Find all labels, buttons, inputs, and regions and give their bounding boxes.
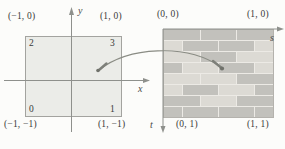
brick-dark <box>237 30 273 40</box>
texture-corner-label-top-right: (1, 0) <box>247 9 269 19</box>
brick-light <box>164 41 182 51</box>
brick-row <box>164 74 273 84</box>
x-axis-arrowhead-icon <box>143 78 150 83</box>
unit-square <box>25 36 122 117</box>
brick-dark <box>255 85 273 95</box>
brick-dark <box>164 96 200 106</box>
brick-light <box>201 96 237 106</box>
brick-row <box>164 30 273 40</box>
brick-dark <box>237 74 273 84</box>
brick-light <box>164 74 200 84</box>
brick-light <box>237 52 273 62</box>
brick-row <box>164 63 273 73</box>
brick-light <box>164 52 200 62</box>
brick-dark <box>237 96 273 106</box>
brick-row <box>164 96 273 106</box>
texture-corner-label-top-left: (0, 0) <box>157 9 179 19</box>
brick-dark <box>164 30 200 40</box>
s-axis-arrowhead-icon <box>277 27 284 32</box>
square-corner-label-bottom-right: (1, −1) <box>98 119 125 129</box>
y-axis-arrowhead-icon <box>69 7 74 15</box>
texture-image <box>163 29 274 118</box>
brick-dark <box>183 107 218 117</box>
brick-dark <box>255 107 273 117</box>
brick-dark <box>183 85 218 95</box>
texture-corner-label-bottom-right: (1, 1) <box>247 119 269 129</box>
t-axis-arrowhead-icon <box>161 126 166 133</box>
brick-row <box>164 52 273 62</box>
texture-corner-label-bottom-left: (0, 1) <box>176 119 198 129</box>
vertex-number-1: 1 <box>110 104 115 114</box>
y-axis-label: y <box>78 5 82 16</box>
vertex-number-2: 2 <box>29 38 34 48</box>
brick-light <box>219 85 254 95</box>
brick-light <box>255 63 273 73</box>
s-axis-label: s <box>270 32 274 43</box>
brick-dark <box>164 107 182 117</box>
brick-dark <box>219 63 254 73</box>
brick-dark <box>219 107 254 117</box>
brick-dark <box>201 30 237 40</box>
vertex-number-0: 0 <box>29 104 34 114</box>
square-corner-label-top-left: (−1, 0) <box>8 11 35 21</box>
brick-row <box>164 107 273 117</box>
brick-dark <box>219 41 254 51</box>
brick-dark <box>183 41 218 51</box>
square-corner-label-bottom-left: (−1, −1) <box>4 119 37 129</box>
brick-dark <box>164 63 182 73</box>
square-corner-label-top-right: (1, 0) <box>100 11 122 21</box>
x-axis-label: x <box>138 83 142 94</box>
t-axis-label: t <box>150 119 153 130</box>
brick-dark <box>201 52 237 62</box>
figure-canvas: (−1, 0) (1, 0) (−1, −1) (1, −1) 2 3 0 1 … <box>0 0 285 149</box>
brick-light <box>164 85 182 95</box>
brick-light <box>201 74 237 84</box>
vertex-number-3: 3 <box>110 38 115 48</box>
brick-row <box>164 85 273 95</box>
brick-light <box>183 63 218 73</box>
brick-row <box>164 41 273 51</box>
